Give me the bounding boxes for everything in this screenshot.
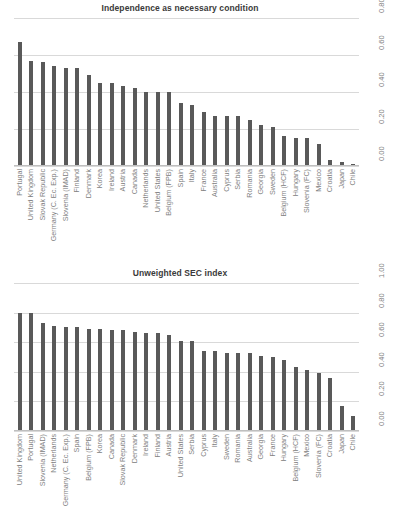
bar-slot <box>221 18 233 166</box>
x-tick-label: Italy <box>212 434 219 447</box>
x-tick-label: Mexico <box>304 434 311 457</box>
bar <box>144 92 148 166</box>
bar-slot <box>141 18 153 166</box>
bar-slot <box>267 18 279 166</box>
bar-slot <box>129 283 141 431</box>
bar-slot <box>164 283 176 431</box>
bar-slot <box>336 283 348 431</box>
x-tick-label: Slovak Republic <box>120 434 127 486</box>
x-label-slot: Belgium (FPB) <box>164 168 176 263</box>
charts-page: Independence as necessary condition 0.00… <box>0 0 408 530</box>
bar <box>29 61 33 166</box>
bar-slot <box>290 18 302 166</box>
bar <box>213 116 217 166</box>
bar-slot <box>26 283 38 431</box>
bar <box>271 127 275 166</box>
bar <box>156 333 160 431</box>
bar <box>294 138 298 166</box>
x-label-slot: Spain <box>72 433 84 528</box>
bar-series <box>14 283 359 431</box>
bar-slot <box>95 283 107 431</box>
bar-slot <box>348 283 360 431</box>
chart-title: Independence as necessary condition <box>0 3 360 13</box>
x-label-slot: Ireland <box>106 168 118 263</box>
x-tick-label: Italy <box>189 169 196 182</box>
x-label-slot: Finland <box>72 168 84 263</box>
bar-slot <box>129 18 141 166</box>
x-tick-label: Austria <box>120 169 127 191</box>
x-label-slot: Belgium (HCF) <box>279 168 291 263</box>
x-label-slot: Slovenia (IMAD) <box>37 433 49 528</box>
plot-area <box>14 18 359 166</box>
bar <box>156 92 160 166</box>
x-tick-label: Canada <box>131 169 138 194</box>
bar-slot <box>187 18 199 166</box>
x-tick-label: United Kingdom <box>16 434 23 485</box>
x-label-slot: Portugal <box>26 433 38 528</box>
y-tick-label: 0.20 <box>363 396 393 406</box>
x-tick-label: United States <box>177 434 184 477</box>
bar-slot <box>325 283 337 431</box>
bar <box>179 341 183 431</box>
bar-slot <box>313 18 325 166</box>
bar-slot <box>336 18 348 166</box>
x-label-slot: Chile <box>348 433 360 528</box>
x-tick-label: Sweden <box>269 169 276 195</box>
x-tick-label: Belgium (HCF) <box>281 169 288 217</box>
bar-slot <box>14 283 26 431</box>
x-tick-label: Chile <box>350 169 357 185</box>
bar-slot <box>72 18 84 166</box>
y-tick-label: 0.40 <box>363 87 393 97</box>
x-tick-label: France <box>200 169 207 191</box>
x-label-slot: Croatia <box>325 168 337 263</box>
x-tick-label: Hungary <box>281 434 288 461</box>
x-tick-label: Germany (C. Ec. Exp.) <box>62 434 69 506</box>
bar <box>202 351 206 431</box>
x-label-slot: Germany (C. Ec. Exp.) <box>49 168 61 263</box>
x-tick-label: Spain <box>74 434 81 452</box>
bar <box>225 116 229 166</box>
bar-slot <box>175 18 187 166</box>
bar-slot <box>60 18 72 166</box>
x-label-slot: Denmark <box>83 168 95 263</box>
bar <box>121 330 125 431</box>
x-tick-label: Netherlands <box>51 434 58 473</box>
x-tick-label: Austria <box>166 434 173 456</box>
bar <box>202 112 206 166</box>
y-axis-labels: 0.000.200.400.600.801.00 <box>363 283 393 431</box>
plot-area <box>14 283 359 431</box>
x-tick-label: United States <box>154 169 161 212</box>
bar-slot <box>37 18 49 166</box>
bar-slot <box>210 18 222 166</box>
x-label-slot: Romania <box>244 168 256 263</box>
y-tick-label: 0.60 <box>363 50 393 60</box>
bar-slot <box>279 18 291 166</box>
x-label-slot: Canada <box>106 433 118 528</box>
x-tick-label: Mexico <box>315 169 322 192</box>
bar <box>340 406 344 431</box>
bar-slot <box>348 18 360 166</box>
bar <box>282 136 286 166</box>
chart-unweighted-sec-index: Unweighted SEC index 0.000.200.400.600.8… <box>0 265 408 530</box>
bar <box>64 68 68 166</box>
gridline <box>14 431 359 432</box>
x-label-slot: United Kingdom <box>26 168 38 263</box>
x-tick-label: Germany (C. Ec. Exp.) <box>51 169 58 241</box>
x-label-slot: Canada <box>129 168 141 263</box>
bar-slot <box>233 18 245 166</box>
y-axis-labels: 0.000.200.400.600.80 <box>363 18 393 166</box>
bar <box>305 138 309 166</box>
bar <box>190 105 194 166</box>
bar-slot <box>164 18 176 166</box>
x-label-slot: Korea <box>95 433 107 528</box>
bar <box>110 330 114 431</box>
x-label-slot: Mexico <box>313 168 325 263</box>
bar <box>305 370 309 431</box>
x-label-slot: Sweden <box>267 168 279 263</box>
x-label-slot: United Kingdom <box>14 433 26 528</box>
bar <box>236 353 240 431</box>
x-label-slot: Slovenia (IMAD) <box>60 168 72 263</box>
bar-slot <box>152 18 164 166</box>
x-label-slot: Cyprus <box>221 168 233 263</box>
bar-series <box>14 18 359 166</box>
